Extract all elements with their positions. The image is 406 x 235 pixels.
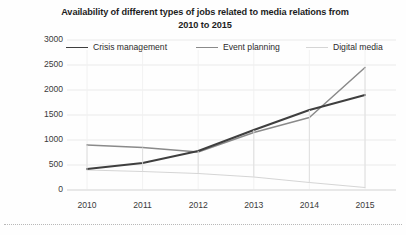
y-axis-tick-label: 3000 — [23, 34, 63, 44]
x-axis-tick-label: 2012 — [176, 200, 220, 210]
series-line-crisis-management — [87, 95, 365, 169]
x-axis-tick-label: 2011 — [121, 200, 165, 210]
y-axis-tick-label: 0 — [23, 184, 63, 194]
x-axis-tick-label: 2014 — [287, 200, 331, 210]
y-axis-tick-label: 2000 — [23, 84, 63, 94]
y-axis-tick-label: 1500 — [23, 109, 63, 119]
y-axis-tick-label: 500 — [23, 159, 63, 169]
series-line-event-planning — [87, 68, 365, 153]
series-line-digital-media — [87, 170, 365, 188]
x-axis-tick-label: 2015 — [343, 200, 387, 210]
y-axis-tick-label: 1000 — [23, 134, 63, 144]
bottom-divider — [4, 224, 402, 225]
chart-card: Availability of different types of jobs … — [0, 0, 406, 235]
y-axis-tick-label: 2500 — [23, 59, 63, 69]
x-axis-tick-label: 2010 — [65, 200, 109, 210]
x-axis-tick-label: 2013 — [232, 200, 276, 210]
